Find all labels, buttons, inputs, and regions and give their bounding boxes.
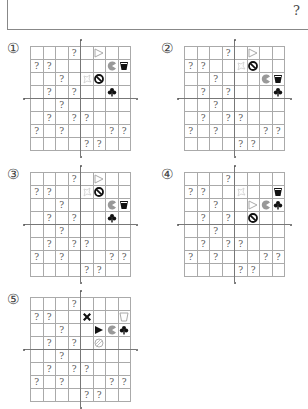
question-cell: ? <box>210 199 223 212</box>
grid-cell <box>94 298 107 311</box>
grid-cell <box>81 225 94 238</box>
grid-cell <box>44 125 57 138</box>
grid-cell <box>106 99 119 112</box>
grid-cell <box>56 264 69 277</box>
triangle-outline-icon <box>94 173 107 186</box>
axis-end-dot <box>136 224 138 226</box>
question-cell: ? <box>260 125 273 138</box>
question-cell: ? <box>210 125 223 138</box>
grid-cell <box>56 238 69 251</box>
grid-cell <box>273 99 286 112</box>
grid-cell <box>198 138 211 151</box>
question-cell: ? <box>235 138 248 151</box>
grid-cell <box>248 238 261 251</box>
question-cell: ? <box>248 138 261 151</box>
prohibit-black-icon <box>94 73 107 86</box>
grid-cell <box>210 173 223 186</box>
question-cell: ? <box>44 60 57 73</box>
grid-cell <box>198 264 211 277</box>
question-cell: ? <box>248 264 261 277</box>
triangle-outline-icon <box>248 47 261 60</box>
grid-cell <box>106 311 119 324</box>
axis-end-dot <box>234 165 236 167</box>
grid-cell <box>119 350 132 363</box>
grid-cell <box>185 225 198 238</box>
grid-cell <box>198 125 211 138</box>
grid-cell <box>119 73 132 86</box>
grid-cell <box>260 264 273 277</box>
question-cell: ? <box>81 264 94 277</box>
grid-cell <box>273 138 286 151</box>
x-axis <box>24 224 136 225</box>
grid-cell <box>44 199 57 212</box>
grid-cell <box>94 225 107 238</box>
question-cell: ? <box>106 125 119 138</box>
question-cell: ? <box>44 311 57 324</box>
grid-cell <box>81 350 94 363</box>
option-label: ⑤ <box>7 291 20 307</box>
triangle-outline-icon <box>94 47 107 60</box>
grid-cell <box>198 73 211 86</box>
grid-cell <box>119 389 132 402</box>
question-cell: ? <box>56 73 69 86</box>
grid-cell <box>260 47 273 60</box>
grid-cell <box>56 311 69 324</box>
grid-cell <box>273 225 286 238</box>
question-cell: ? <box>273 125 286 138</box>
question-cell: ? <box>81 389 94 402</box>
grid-cell <box>44 264 57 277</box>
grid-cell <box>81 173 94 186</box>
grid-cell <box>198 47 211 60</box>
question-cell: ? <box>56 251 69 264</box>
club-black-icon <box>119 324 132 337</box>
question-cell: ? <box>31 186 44 199</box>
grid-cell <box>185 99 198 112</box>
grid-cell <box>198 199 211 212</box>
grid-cell <box>119 363 132 376</box>
grid-cell <box>119 112 132 125</box>
grid-cell <box>44 99 57 112</box>
axis-end-dot <box>23 349 25 351</box>
axis-end-dot <box>80 39 82 41</box>
grid-cell <box>119 186 132 199</box>
question-cell: ? <box>94 389 107 402</box>
axis-end-dot <box>80 165 82 167</box>
grid-cell <box>94 311 107 324</box>
grid-cell <box>106 47 119 60</box>
grid-cell <box>235 225 248 238</box>
question-cell: ? <box>185 125 198 138</box>
grid-cell <box>56 138 69 151</box>
grid-cell <box>273 112 286 125</box>
grid-cell <box>235 251 248 264</box>
grid-cell <box>81 324 94 337</box>
grid-cell <box>248 73 261 86</box>
question-cell: ? <box>235 238 248 251</box>
grid-cell <box>81 47 94 60</box>
grid-cell <box>31 264 44 277</box>
grid-cell <box>106 186 119 199</box>
axis-end-dot <box>234 39 236 41</box>
grid-cell <box>198 225 211 238</box>
question-cell: ? <box>44 363 57 376</box>
question-cell: ? <box>44 238 57 251</box>
grid-cell <box>119 264 132 277</box>
grid-cell <box>260 186 273 199</box>
question-box: ? <box>7 0 308 30</box>
cross-black-icon <box>81 311 94 324</box>
grid-cell <box>198 251 211 264</box>
triangle-black-icon <box>94 324 107 337</box>
grid-cell <box>56 298 69 311</box>
grid-cell <box>260 99 273 112</box>
question-cell: ? <box>31 376 44 389</box>
grid-cell <box>210 264 223 277</box>
grid-cell <box>235 99 248 112</box>
grid-cell <box>185 264 198 277</box>
grid-cell <box>185 47 198 60</box>
x-axis <box>178 98 290 99</box>
grid-cell <box>31 173 44 186</box>
grid-cell <box>81 199 94 212</box>
question-cell: ? <box>44 112 57 125</box>
question-cell: ? <box>273 251 286 264</box>
cup-black-icon <box>273 186 286 199</box>
grid-cell <box>94 60 107 73</box>
